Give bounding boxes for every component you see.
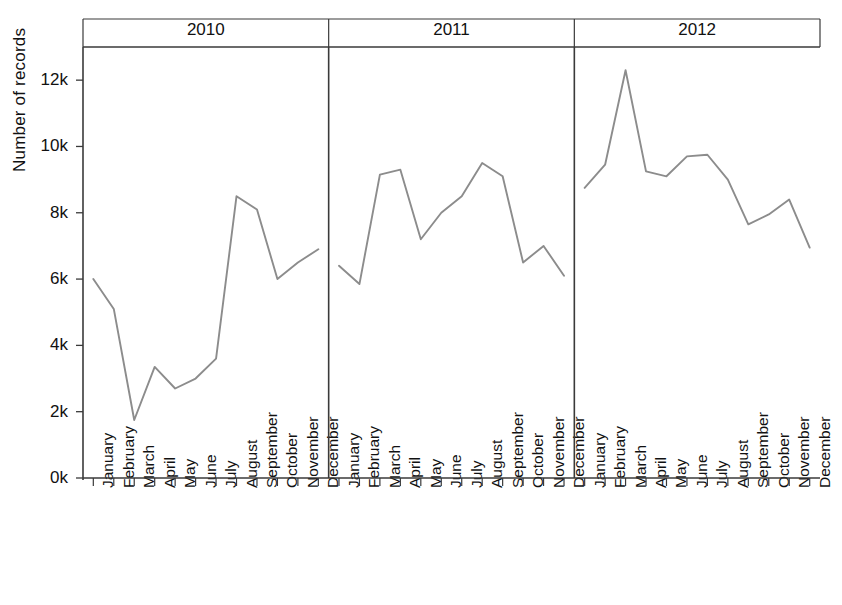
- data-line-2011: [339, 163, 564, 284]
- data-line-2010: [93, 196, 318, 420]
- data-line-2012: [585, 70, 810, 247]
- line-chart-figure: Number of records 0k2k4k6k8k10k12k 20102…: [0, 0, 842, 605]
- plot-canvas: [0, 0, 842, 605]
